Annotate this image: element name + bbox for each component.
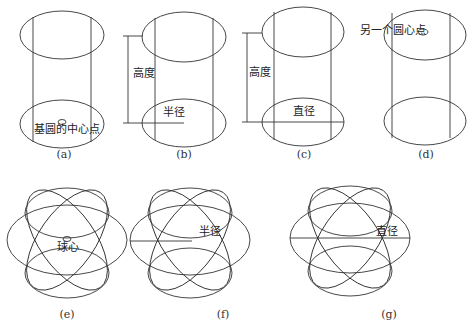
label-height-b: 高度 — [133, 68, 155, 79]
label-height-c: 高度 — [249, 67, 271, 78]
label-radius-b: 半径 — [163, 107, 185, 118]
figure-e-sphere — [7, 176, 127, 303]
caption-d: (d) — [418, 149, 434, 160]
caption-f: (f) — [217, 309, 230, 320]
label-sphere-center: 球心 — [57, 242, 79, 253]
label-diameter-g: 直径 — [376, 226, 398, 237]
caption-g: (g) — [381, 309, 397, 320]
cylinder-sphere-diagram: 基圆的中心点 (a) 高度 半径 (b) 高度 直径 (c) 另一个圆心点 (d… — [0, 0, 468, 323]
caption-c: (c) — [297, 149, 312, 160]
caption-e: (e) — [59, 309, 74, 320]
caption-b: (b) — [176, 149, 192, 160]
caption-a: (a) — [56, 149, 71, 160]
figure-g-sphere — [290, 174, 410, 301]
diagram-drawing — [0, 0, 468, 323]
label-other-center: 另一个圆心点 — [360, 25, 426, 36]
label-diameter-c: 直径 — [293, 106, 315, 117]
figure-f-sphere — [130, 176, 250, 303]
label-base-center: 基圆的中心点 — [34, 124, 100, 135]
label-radius-f: 半径 — [199, 226, 221, 237]
